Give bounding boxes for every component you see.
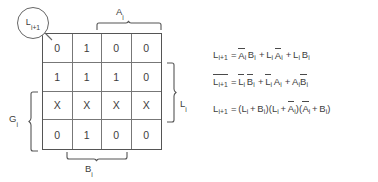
equation-product-of-sums: Li+1=(Li+Bi)(Li+Ai)(Ai+Bi) bbox=[213, 104, 378, 114]
callout-circle-l-i-plus-1: Li+1 bbox=[17, 7, 49, 39]
bracket-label-a-i-top: Ai bbox=[116, 6, 124, 19]
equation-sum-of-products: Li+1=AiBi+LiAi+LiBi bbox=[213, 50, 378, 60]
kmap-cell: X bbox=[43, 92, 73, 121]
kmap-cell: 0 bbox=[132, 34, 162, 63]
bracket-right-l-i bbox=[167, 62, 178, 124]
kmap-cell: X bbox=[73, 92, 103, 121]
callout-label: Li+1 bbox=[26, 17, 40, 29]
bracket-label-l-i-right: Li bbox=[180, 98, 187, 111]
bracket-top-a-i bbox=[96, 20, 162, 31]
bracket-label-b-i-bottom: Bi bbox=[85, 163, 93, 176]
kmap-cell: 1 bbox=[43, 63, 73, 92]
kmap-cell: 0 bbox=[132, 120, 162, 149]
bracket-bottom-b-i bbox=[66, 152, 128, 163]
kmap-cell: 1 bbox=[73, 34, 103, 63]
bracket-left-g-i bbox=[27, 91, 39, 153]
kmap-cell: 0 bbox=[43, 120, 73, 149]
kmap-cell: 0 bbox=[132, 63, 162, 92]
kmap-cell: 0 bbox=[102, 34, 132, 63]
kmap-cell: 1 bbox=[102, 63, 132, 92]
kmap-cell: X bbox=[132, 92, 162, 121]
kmap-cell: 0 bbox=[102, 120, 132, 149]
equation-complement-sum-of-products: Li+1=LiBi+LiAi+AiBi bbox=[213, 77, 378, 87]
kmap-cell: 1 bbox=[73, 120, 103, 149]
bracket-label-g-i-left: Gi bbox=[9, 113, 18, 126]
karnaugh-map-grid: 0 1 0 0 1 1 1 0 X X X X 0 1 0 0 bbox=[42, 33, 162, 150]
equation-list: Li+1=AiBi+LiAi+LiBi Li+1=LiBi+LiAi+AiBi … bbox=[213, 50, 378, 113]
kmap-cell: X bbox=[102, 92, 132, 121]
kmap-cell: 1 bbox=[73, 63, 103, 92]
